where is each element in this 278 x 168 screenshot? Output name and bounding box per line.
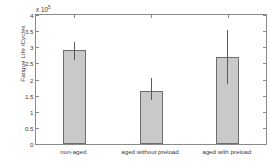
y-tick-mark-right [263,47,266,48]
y-tick-mark [36,144,39,145]
y-axis-exponent-value: 5 [48,5,51,10]
x-tick-mark [151,15,152,18]
y-tick-mark [36,63,39,64]
y-tick-label: 2 [30,76,33,83]
y-tick-mark-right [263,31,266,32]
bar-chart-figure: Fatigue Life /Cycles x 105 00.511.522.53… [0,0,278,168]
y-tick-mark [36,112,39,113]
y-axis-multiplier-text: x 10 [36,6,48,13]
error-bar-line [227,30,228,85]
plot-area: 00.511.522.533.54 [35,14,267,145]
y-tick-label: 0 [30,141,33,148]
y-tick-label: 0.5 [25,124,34,131]
y-axis-exponent-label: x 105 [36,5,50,13]
y-tick-label: 1.5 [25,92,34,99]
y-tick-mark [36,31,39,32]
y-tick-mark-right [263,80,266,81]
y-tick-mark [36,128,39,129]
y-tick-mark [36,47,39,48]
y-tick-mark-right [263,63,266,64]
y-tick-mark-right [263,144,266,145]
y-tick-mark [36,15,39,16]
y-tick-mark-right [263,128,266,129]
y-tick-mark [36,96,39,97]
x-category-label: aged with preload [202,148,251,155]
error-bar-line [74,42,75,60]
x-tick-mark [228,15,229,18]
y-tick-label: 3.5 [25,28,34,35]
y-tick-label: 4 [30,12,33,19]
y-tick-mark-right [263,15,266,16]
y-tick-mark-right [263,112,266,113]
x-category-label: non-aged [60,148,86,155]
y-tick-mark [36,80,39,81]
x-category-label: aged without preload [121,148,178,155]
bar [63,50,86,144]
y-tick-label: 1 [30,108,33,115]
y-tick-mark-right [263,96,266,97]
x-tick-mark [74,15,75,18]
y-tick-label: 3 [30,44,33,51]
error-bar-line [151,78,152,101]
y-tick-label: 2.5 [25,60,34,67]
